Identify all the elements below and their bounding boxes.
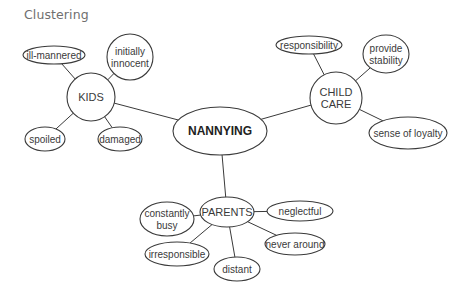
node-initially-innocent: initiallyinnocent bbox=[107, 34, 153, 80]
edge-parents-constantly-busy bbox=[194, 215, 201, 216]
node-damaged-label: damaged bbox=[99, 134, 141, 145]
node-initially-innocent-label: initially bbox=[115, 46, 145, 57]
node-spoiled-label: spoiled bbox=[29, 134, 61, 145]
node-constantly-busy-label: constantly bbox=[144, 208, 189, 219]
node-never-around-label: never around bbox=[266, 239, 325, 250]
edge-kids-damaged bbox=[105, 117, 113, 128]
edge-parents-never-around bbox=[248, 222, 277, 236]
node-distant-label: distant bbox=[222, 264, 252, 275]
edge-child-care-provide-stability bbox=[356, 68, 371, 81]
node-kids-label: KIDS bbox=[78, 91, 104, 103]
node-provide-stability-label: provide bbox=[370, 43, 403, 54]
node-responsibility-label: responsibility bbox=[280, 40, 338, 51]
node-spoiled: spoiled bbox=[25, 127, 65, 151]
node-provide-stability: providestability bbox=[363, 35, 409, 73]
node-kids: KIDS bbox=[67, 73, 115, 121]
node-parents: PARENTS bbox=[200, 197, 254, 227]
node-parents-label: PARENTS bbox=[201, 206, 252, 218]
node-sense-of-loyalty: sense of loyalty bbox=[369, 117, 447, 149]
node-ill-mannered: ill-mannered bbox=[23, 46, 85, 64]
edge-kids-ill-mannered bbox=[62, 64, 75, 79]
node-distant: distant bbox=[214, 257, 260, 281]
node-provide-stability-label: stability bbox=[369, 55, 402, 66]
node-child-care-label: CHILD bbox=[319, 86, 352, 98]
node-child-care-label: CARE bbox=[321, 98, 352, 110]
node-ill-mannered-label: ill-mannered bbox=[26, 50, 81, 61]
edge-center-child-care bbox=[261, 105, 311, 119]
edge-child-care-responsibility bbox=[314, 54, 325, 75]
node-irresponsible: irresponsible bbox=[145, 242, 209, 266]
edge-kids-initially-innocent bbox=[108, 73, 114, 79]
node-layer: NANNYINGKIDSCHILDCAREPARENTSill-mannered… bbox=[23, 34, 447, 281]
node-center: NANNYING bbox=[173, 107, 267, 155]
node-constantly-busy: constantlybusy bbox=[140, 202, 194, 236]
node-child-care: CHILDCARE bbox=[310, 72, 362, 124]
node-damaged: damaged bbox=[98, 127, 142, 151]
edge-center-parents bbox=[222, 155, 226, 197]
node-irresponsible-label: irresponsible bbox=[149, 249, 206, 260]
edge-kids-spoiled bbox=[56, 113, 73, 129]
edge-child-care-sense-of-loyalty bbox=[359, 109, 382, 120]
node-never-around: never around bbox=[265, 233, 325, 255]
node-sense-of-loyalty-label: sense of loyalty bbox=[374, 128, 443, 139]
node-neglectful-label: neglectful bbox=[279, 206, 322, 217]
edge-center-kids bbox=[114, 103, 178, 120]
node-neglectful: neglectful bbox=[267, 201, 333, 221]
edge-parents-irresponsible bbox=[190, 225, 212, 244]
node-constantly-busy-label: busy bbox=[156, 220, 177, 231]
node-center-label: NANNYING bbox=[188, 124, 252, 138]
edge-parents-distant bbox=[230, 227, 235, 257]
node-initially-innocent-label: innocent bbox=[111, 58, 149, 69]
cluster-diagram: NANNYINGKIDSCHILDCAREPARENTSill-mannered… bbox=[0, 0, 467, 290]
node-responsibility: responsibility bbox=[276, 36, 342, 54]
